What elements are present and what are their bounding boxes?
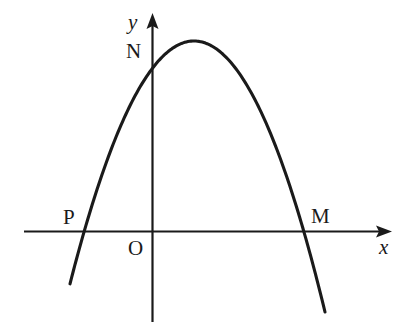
point-label-m: M	[311, 206, 330, 227]
origin-label: O	[128, 238, 143, 259]
x-axis-label: x	[379, 237, 388, 258]
coordinate-plane-graphic	[0, 0, 413, 330]
y-axis-label: y	[128, 12, 137, 33]
point-label-n: N	[126, 41, 141, 62]
parabola-curve	[70, 41, 325, 312]
math-figure-parabola: y x N O P M	[0, 0, 413, 330]
point-label-p: P	[63, 207, 75, 228]
